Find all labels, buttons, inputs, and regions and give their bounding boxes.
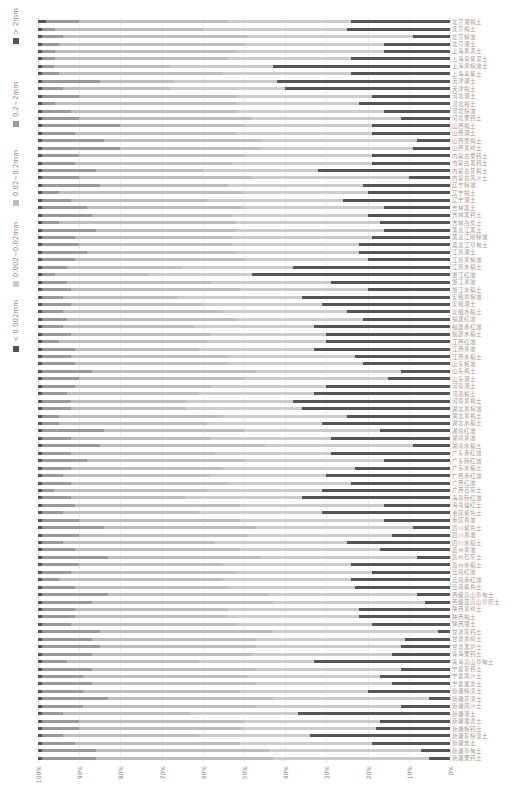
- bar-row: [38, 258, 450, 261]
- bar-segment: [79, 176, 252, 179]
- bar-segment: [42, 110, 71, 113]
- bar-segment: [42, 243, 79, 246]
- bar-segment: [203, 169, 318, 172]
- category-label: 新疆灰棕漠土: [452, 733, 488, 739]
- bar-segment: [429, 757, 450, 760]
- bar-segment: [314, 660, 450, 663]
- category-label: 陕西褐土: [452, 614, 476, 620]
- legend-swatch-icon: [13, 281, 19, 287]
- bar-segment: [75, 608, 227, 611]
- bar-segment: [314, 392, 450, 395]
- bar-segment: [71, 199, 207, 202]
- bar-segment: [42, 563, 79, 566]
- bar-segment: [92, 668, 257, 671]
- bar-row: [38, 296, 450, 299]
- bar-row: [38, 333, 450, 336]
- category-label: 福建红壤: [452, 316, 476, 322]
- bar-row: [38, 251, 450, 254]
- bar-segment: [75, 132, 236, 135]
- bar-segment: [228, 57, 352, 60]
- category-label: 吉林黑钙土: [452, 212, 482, 218]
- bar-segment: [223, 415, 347, 418]
- bar-segment: [236, 251, 360, 254]
- bar-segment: [71, 571, 236, 574]
- bar-segment: [42, 251, 87, 254]
- x-tick-label: 50%: [241, 766, 248, 779]
- bar-segment: [252, 176, 409, 179]
- bar-segment: [79, 720, 244, 723]
- bar-row: [38, 154, 450, 157]
- category-label: 上海青紫土: [452, 71, 482, 77]
- bar-segment: [79, 534, 248, 537]
- bar-row: [38, 422, 450, 425]
- category-label: 陕西黄绵土: [452, 606, 482, 612]
- bar-row: [38, 496, 450, 499]
- gridline: [326, 18, 327, 762]
- bar-segment: [42, 749, 96, 752]
- bar-segment: [347, 310, 450, 313]
- bar-segment: [190, 712, 297, 715]
- bar-segment: [401, 117, 450, 120]
- bar-segment: [252, 117, 400, 120]
- bar-segment: [244, 43, 384, 46]
- bar-segment: [347, 541, 450, 544]
- bar-segment: [42, 385, 75, 388]
- bar-segment: [384, 110, 450, 113]
- bar-segment: [199, 660, 314, 663]
- bar-segment: [273, 697, 430, 700]
- bar-row: [38, 727, 450, 730]
- bar-row: [38, 734, 450, 737]
- bar-segment: [240, 690, 368, 693]
- category-label: 浙江红壤: [452, 272, 476, 278]
- bar-segment: [42, 742, 75, 745]
- category-label: 湖南红壤: [452, 428, 476, 434]
- bar-segment: [429, 697, 450, 700]
- bar-segment: [405, 638, 450, 641]
- legend-swatch-icon: [13, 121, 19, 127]
- bar-row: [38, 638, 450, 641]
- bar-segment: [322, 511, 450, 514]
- gridline: [244, 18, 245, 762]
- bar-segment: [277, 80, 450, 83]
- bar-row: [38, 697, 450, 700]
- bar-segment: [42, 258, 75, 261]
- bar-segment: [207, 340, 326, 343]
- bar-segment: [46, 20, 79, 23]
- category-label: 北京潮褐土: [452, 19, 482, 25]
- legend-item: 0.02~0.2mm: [6, 150, 26, 206]
- x-tick-label: 20%: [365, 766, 372, 779]
- bar-segment: [42, 288, 71, 291]
- bar-segment: [42, 400, 71, 403]
- category-label: 广西红壤: [452, 480, 476, 486]
- bar-segment: [228, 355, 356, 358]
- bar-segment: [42, 601, 91, 604]
- bar-segment: [240, 288, 368, 291]
- bar-segment: [380, 548, 450, 551]
- bar-segment: [120, 147, 260, 150]
- category-label: 山东棕壤: [452, 361, 476, 367]
- bar-segment: [384, 519, 450, 522]
- bar-segment: [42, 541, 63, 544]
- bar-segment: [42, 87, 63, 90]
- bar-segment: [236, 571, 372, 574]
- category-label: 山西栗褐土: [452, 138, 482, 144]
- bar-segment: [372, 623, 450, 626]
- bar-row: [38, 534, 450, 537]
- bar-segment: [75, 258, 244, 261]
- bar-segment: [42, 377, 79, 380]
- category-label: 安徽潮土: [452, 301, 476, 307]
- category-label: 西藏亚高山草原土: [452, 599, 500, 605]
- bar-segment: [149, 273, 252, 276]
- bar-segment: [244, 206, 384, 209]
- bar-segment: [236, 132, 372, 135]
- bar-segment: [421, 749, 450, 752]
- bar-segment: [228, 608, 360, 611]
- bar-segment: [54, 65, 169, 68]
- bar-row: [38, 385, 450, 388]
- bar-segment: [273, 630, 438, 633]
- category-label: 河北褐土: [452, 101, 476, 107]
- bar-row: [38, 214, 450, 217]
- bar-segment: [42, 214, 91, 217]
- bar-segment: [71, 496, 186, 499]
- bar-segment: [71, 452, 215, 455]
